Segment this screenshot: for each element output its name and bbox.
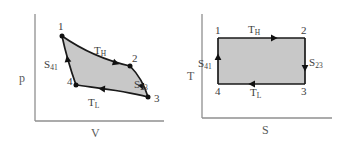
pv-x-axis-label: V bbox=[91, 127, 100, 139]
pv-isotherm-low-subscript: L bbox=[95, 101, 100, 110]
pv-isentrope-23-label: S23 bbox=[134, 79, 148, 90]
ts-state-label-1: 1 bbox=[215, 25, 221, 36]
pv-isotherm-high-symbol: T bbox=[94, 44, 101, 56]
pv-isotherm-low-label: TL bbox=[88, 97, 99, 108]
ts-isentrope-41-label: S41 bbox=[198, 58, 212, 69]
ts-isotherm-high-subscript: H bbox=[255, 28, 260, 37]
pv-isentrope-41-subscript: 41 bbox=[50, 63, 58, 72]
pv-state-point-1 bbox=[60, 34, 65, 39]
pv-isentrope-23-subscript: 23 bbox=[140, 83, 148, 92]
pv-state-label-4: 4 bbox=[67, 76, 73, 87]
pv-isotherm-low-symbol: T bbox=[88, 96, 95, 108]
pv-isotherm-high-subscript: H bbox=[101, 49, 106, 58]
ts-state-label-4: 4 bbox=[215, 86, 221, 97]
pv-state-point-3 bbox=[146, 95, 151, 100]
ts-isentrope-41-subscript: 41 bbox=[204, 62, 212, 71]
pv-diagram-panel: p V 1 2 3 4 TH TL S41 S23 bbox=[0, 0, 175, 143]
pv-state-point-4 bbox=[74, 83, 79, 88]
ts-isotherm-high-label: TH bbox=[248, 24, 260, 35]
pv-state-label-1: 1 bbox=[58, 21, 64, 32]
pv-diagram-graphic bbox=[0, 0, 175, 143]
ts-state-label-3: 3 bbox=[301, 86, 307, 97]
pv-y-axis-label: p bbox=[19, 72, 25, 84]
ts-isentrope-23-subscript: 23 bbox=[315, 61, 323, 70]
carnot-cycle-figure: p V 1 2 3 4 TH TL S41 S23 bbox=[0, 0, 349, 143]
ts-isotherm-low-symbol: T bbox=[250, 86, 257, 98]
ts-isotherm-low-label: TL bbox=[250, 87, 261, 98]
ts-isotherm-low-subscript: L bbox=[257, 91, 262, 100]
ts-x-axis-label: S bbox=[262, 124, 269, 136]
ts-state-label-2: 2 bbox=[301, 25, 307, 36]
ts-diagram-panel: T S 1 2 3 4 TH TL S41 S23 bbox=[175, 0, 349, 143]
ts-cycle-fill bbox=[218, 38, 305, 84]
pv-state-label-3: 3 bbox=[154, 93, 160, 104]
pv-state-label-2: 2 bbox=[132, 53, 138, 64]
ts-isentrope-23-label: S23 bbox=[309, 57, 323, 68]
ts-isotherm-high-symbol: T bbox=[248, 23, 255, 35]
pv-isotherm-high-label: TH bbox=[94, 45, 106, 56]
ts-diagram-graphic bbox=[175, 0, 349, 143]
pv-isentrope-41-label: S41 bbox=[44, 59, 58, 70]
pv-state-point-2 bbox=[128, 64, 133, 69]
ts-y-axis-label: T bbox=[187, 70, 194, 82]
